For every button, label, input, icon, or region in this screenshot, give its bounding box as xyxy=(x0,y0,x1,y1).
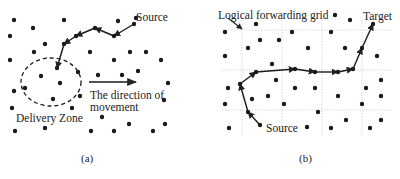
path-node-dot xyxy=(360,46,364,50)
node-dot xyxy=(128,50,132,54)
hop-arrow-icon xyxy=(295,69,315,72)
path-node-dot xyxy=(62,42,66,46)
node-dot xyxy=(8,34,12,38)
node-dot xyxy=(333,13,337,17)
node-dot xyxy=(127,122,131,126)
node-dot xyxy=(223,102,227,106)
hop-arrow-icon xyxy=(240,84,248,112)
node-dot xyxy=(368,126,372,130)
node-dot xyxy=(223,54,227,58)
path-node-dot xyxy=(93,26,97,30)
node-dot xyxy=(254,22,258,26)
path-node-dot xyxy=(74,34,78,38)
path-node-dot xyxy=(254,70,258,74)
node-dot xyxy=(10,106,14,110)
diagram-canvas xyxy=(0,0,400,179)
hop-arrow-icon xyxy=(362,24,373,48)
hop-arrow-icon xyxy=(256,69,295,72)
node-dot xyxy=(51,97,55,101)
node-dot xyxy=(8,58,12,62)
path-node-dot xyxy=(313,70,317,74)
node-dot xyxy=(329,126,333,130)
node-dot xyxy=(166,81,170,85)
node-dot xyxy=(270,62,274,66)
node-dot xyxy=(223,30,227,34)
grid-label: Logical forwarding grid xyxy=(218,9,329,21)
path-node-dot xyxy=(258,123,262,127)
hop-arrow-icon xyxy=(338,69,353,72)
node-dot xyxy=(89,129,93,133)
direction-label-line1: The direction of xyxy=(90,89,164,101)
node-dot xyxy=(78,94,82,98)
node-dot xyxy=(120,73,124,77)
node-dot xyxy=(13,129,17,133)
node-dot xyxy=(112,58,116,62)
node-dot xyxy=(306,46,310,50)
node-dot xyxy=(379,94,383,98)
node-dot xyxy=(76,70,80,74)
path-node-dot xyxy=(238,82,242,86)
node-dot xyxy=(116,19,120,23)
routing-path-a xyxy=(55,22,136,70)
caption-a: (a) xyxy=(81,152,93,164)
node-dot xyxy=(293,86,297,90)
node-dot xyxy=(375,54,379,58)
node-dot xyxy=(112,129,116,133)
node-dot xyxy=(136,69,140,73)
node-dot xyxy=(43,126,47,130)
node-dot xyxy=(144,50,148,54)
node-dot xyxy=(43,42,47,46)
node-dot xyxy=(329,30,333,34)
hop-arrow-icon xyxy=(95,28,114,36)
node-dot xyxy=(274,78,278,82)
node-dot xyxy=(277,38,281,42)
node-dot xyxy=(258,38,262,42)
caption-b: (b) xyxy=(299,152,312,164)
node-dot xyxy=(364,86,368,90)
node-dot xyxy=(336,94,340,98)
node-dot xyxy=(226,86,230,90)
path-node-dot xyxy=(112,34,116,38)
hop-arrow-icon xyxy=(353,48,362,69)
node-dot xyxy=(163,122,167,126)
node-dot xyxy=(159,58,163,62)
node-dot xyxy=(313,86,317,90)
delivery-zone-label: Delivery Zone xyxy=(16,112,83,124)
node-dot xyxy=(379,78,383,82)
path-node-dot xyxy=(371,22,375,26)
node-dot xyxy=(32,50,36,54)
node-dot xyxy=(96,73,100,77)
path-node-dot xyxy=(246,110,250,114)
node-dot xyxy=(348,18,352,22)
node-dot xyxy=(379,118,383,122)
node-dot xyxy=(58,81,62,85)
node-dot xyxy=(227,126,231,130)
node-dot xyxy=(305,125,309,129)
path-node-dot xyxy=(351,67,355,71)
node-dot xyxy=(31,26,35,30)
node-dot xyxy=(39,74,43,78)
source-label-b: Source xyxy=(266,122,298,134)
routing-path-b xyxy=(238,22,375,127)
node-dot xyxy=(266,94,270,98)
hop-arrow-icon xyxy=(114,24,134,36)
node-dot xyxy=(282,102,286,106)
node-dot xyxy=(12,18,16,22)
node-dot xyxy=(344,118,348,122)
node-dot xyxy=(343,46,347,50)
hop-arrow-icon xyxy=(57,44,64,68)
target-label: Target xyxy=(363,10,392,22)
node-dot xyxy=(88,50,92,54)
node-dot xyxy=(360,102,364,106)
hop-arrow-icon xyxy=(76,28,95,36)
path-node-dot xyxy=(293,67,297,71)
node-dot xyxy=(290,30,294,34)
source-label-a: Source xyxy=(136,11,168,23)
node-dot xyxy=(62,18,66,22)
node-dot xyxy=(23,86,27,90)
hop-arrow-icon xyxy=(248,112,260,125)
node-dot xyxy=(250,97,254,101)
node-dot xyxy=(12,89,16,93)
direction-label-line2: movement xyxy=(90,101,139,113)
path-node-dot xyxy=(336,70,340,74)
